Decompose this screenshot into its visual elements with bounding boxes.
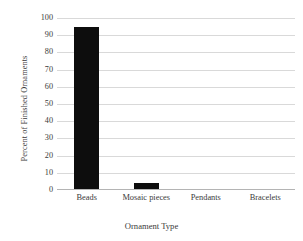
x-axis-tick-label: Bracelets xyxy=(236,193,296,203)
y-axis-tick-label: 10 xyxy=(27,169,53,177)
y-axis-tick-label: 100 xyxy=(27,14,53,22)
y-axis-tick-label: 80 xyxy=(27,48,53,56)
bar-chart: Percent of Finished Ornaments 0102030405… xyxy=(0,0,303,241)
y-axis-tick-label: 40 xyxy=(27,117,53,125)
x-axis-tick-label: Pendants xyxy=(176,193,236,203)
y-axis-tick-label: 60 xyxy=(27,83,53,91)
x-axis-title: Ornament Type xyxy=(0,221,303,231)
gridline xyxy=(57,18,295,19)
y-axis-tick-label: 30 xyxy=(27,134,53,142)
bar xyxy=(74,27,99,190)
y-axis-tick-label: 90 xyxy=(27,31,53,39)
x-axis-tick-label: Beads xyxy=(57,193,117,203)
plot-area xyxy=(57,18,295,190)
x-axis-line xyxy=(57,189,295,190)
y-axis-title: Percent of Finished Ornaments xyxy=(20,29,29,189)
y-axis-tick-label: 50 xyxy=(27,100,53,108)
x-axis-tick-label: Mosaic pieces xyxy=(117,193,177,203)
y-axis-tick-label: 0 xyxy=(27,186,53,194)
y-axis-tick-label: 20 xyxy=(27,152,53,160)
y-axis-tick-label: 70 xyxy=(27,66,53,74)
